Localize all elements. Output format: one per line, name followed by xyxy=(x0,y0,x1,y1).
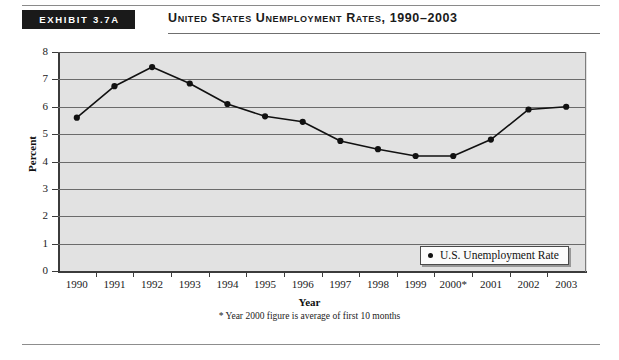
exhibit-header: EXHIBIT 3.7A United States Unemployment … xyxy=(0,0,619,40)
series-layer xyxy=(0,40,619,320)
chart-container: 012345678 199019911992199319941995199619… xyxy=(0,40,619,320)
legend-marker-icon xyxy=(428,253,433,258)
data-point-1998 xyxy=(375,146,381,152)
data-point-1996 xyxy=(300,119,306,125)
data-point-1991 xyxy=(111,83,117,89)
data-point-2000* xyxy=(450,153,456,159)
exhibit-badge: EXHIBIT 3.7A xyxy=(22,10,135,29)
page-title: United States Unemployment Rates, 1990–2… xyxy=(168,11,458,25)
data-point-1992 xyxy=(149,64,155,70)
header-under-rule xyxy=(168,33,600,34)
header-top-rule xyxy=(22,5,600,6)
data-point-1993 xyxy=(187,80,193,86)
data-point-1999 xyxy=(413,153,419,159)
data-point-2002 xyxy=(525,106,531,112)
legend-label: U.S. Unemployment Rate xyxy=(440,249,559,261)
data-point-2003 xyxy=(563,104,569,110)
data-point-1994 xyxy=(224,101,230,107)
bottom-rule xyxy=(22,344,600,345)
data-point-1990 xyxy=(74,115,80,121)
data-point-1997 xyxy=(337,138,343,144)
data-point-2001 xyxy=(488,137,494,143)
series-line-us-unemployment-rate xyxy=(77,67,566,156)
data-point-1995 xyxy=(262,113,268,119)
chart-legend: U.S. Unemployment Rate xyxy=(420,246,569,265)
